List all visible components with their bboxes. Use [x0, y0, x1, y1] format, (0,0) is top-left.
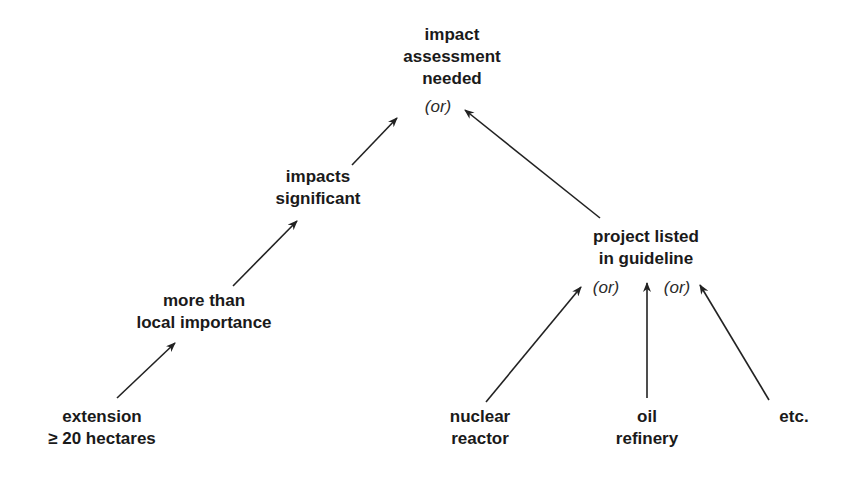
node-line: ≥ 20 hectares — [48, 428, 156, 450]
node-extension-20-hectares: extension ≥ 20 hectares — [48, 406, 156, 450]
node-line: impacts — [275, 166, 360, 188]
node-line: nuclear — [450, 406, 510, 428]
edge-project-to-root — [465, 110, 600, 218]
node-line: oil — [616, 406, 678, 428]
node-line: assessment — [403, 46, 500, 68]
node-line: project listed — [593, 226, 699, 248]
or-label-project-right: (or) — [664, 277, 690, 299]
node-impact-assessment-needed: impact assessment needed — [403, 24, 500, 90]
node-line: reactor — [450, 428, 510, 450]
node-line: local importance — [136, 312, 271, 334]
or-label-project-left: (or) — [593, 277, 619, 299]
node-line: impact — [403, 24, 500, 46]
node-line: significant — [275, 188, 360, 210]
node-line: in guideline — [593, 248, 699, 270]
node-etc: etc. — [779, 406, 808, 428]
node-oil-refinery: oil refinery — [616, 406, 678, 450]
edge-nuclear-to-project — [486, 287, 581, 402]
node-line: refinery — [616, 428, 678, 450]
node-line: more than — [136, 290, 271, 312]
node-impacts-significant: impacts significant — [275, 166, 360, 210]
node-more-than-local-importance: more than local importance — [136, 290, 271, 334]
edge-local-to-impacts — [233, 221, 297, 286]
edge-extension-to-local — [117, 343, 175, 398]
node-line: etc. — [779, 406, 808, 428]
edge-etc-to-project — [700, 285, 769, 400]
edge-impacts-to-root — [352, 118, 397, 165]
node-line: needed — [403, 68, 500, 90]
or-label-root: (or) — [425, 96, 451, 118]
node-nuclear-reactor: nuclear reactor — [450, 406, 510, 450]
node-project-listed-in-guideline: project listed in guideline — [593, 226, 699, 270]
node-line: extension — [48, 406, 156, 428]
